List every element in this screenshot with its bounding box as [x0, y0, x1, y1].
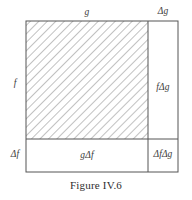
figure-container: g Δg f fΔg Δf gΔf ΔfΔg Figure IV.6	[0, 0, 192, 200]
figure-caption: Figure IV.6	[0, 179, 192, 191]
label-delta-f-delta-g: ΔfΔg	[154, 150, 173, 160]
label-f-delta-g: fΔg	[156, 83, 169, 93]
label-g-delta-f: gΔf	[80, 151, 93, 161]
label-g: g	[85, 8, 90, 18]
label-delta-f: Δf	[11, 150, 19, 160]
hatched-area-fg	[26, 21, 148, 139]
label-delta-g: Δg	[158, 7, 169, 17]
cell-f-delta-g	[148, 21, 178, 139]
label-f: f	[14, 79, 17, 89]
